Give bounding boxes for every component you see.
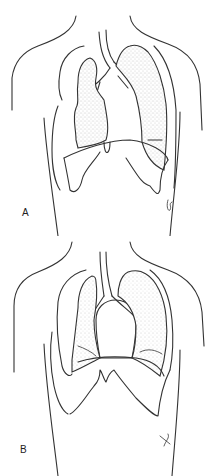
panel-label-a: A — [22, 207, 29, 218]
panel-label-b: B — [20, 444, 27, 455]
panel-b: B — [0, 236, 219, 476]
chest-illustration-b — [0, 236, 219, 476]
chest-illustration-a — [0, 0, 219, 236]
panel-a: A — [0, 0, 219, 236]
